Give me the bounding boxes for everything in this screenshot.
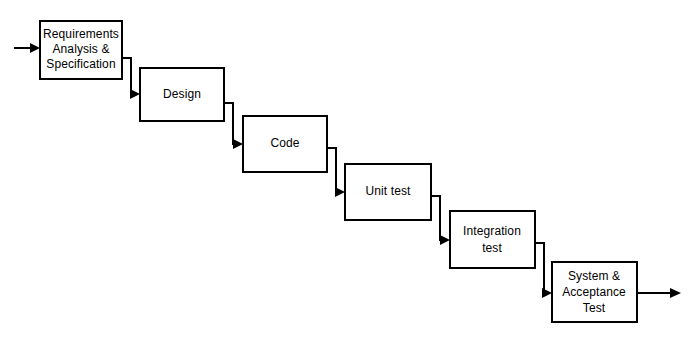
connector-elbow-path [535,243,548,293]
connector-code-to-unit-test [327,148,345,197]
connector-elbow-path [224,103,239,144]
connector-elbow-path [327,148,341,192]
exit-arrow-head [670,288,681,298]
connector-unit-test-to-integration-test [431,196,450,245]
stage-label-line: Integration [463,224,521,238]
connector-elbow-path [431,196,446,240]
stage-label-line: Specification [46,57,115,71]
entry-arrow-head [30,43,40,53]
stage-box-code[interactable]: Code [243,116,327,172]
connector-requirements-to-design [122,58,140,99]
stage-label-line: Design [163,87,201,101]
stage-label-line: Acceptance [562,285,626,299]
waterfall-diagram: Requirements Analysis & Specification De… [0,0,698,342]
waterfall-diagram-canvas: Requirements Analysis & Specification De… [0,0,698,342]
stage-box-integration-test[interactable]: Integration test [450,211,535,268]
stage-box-design[interactable]: Design [140,68,224,121]
stage-label-line: Code [270,136,299,150]
stage-box-system-acceptance-test[interactable]: System & Acceptance Test [552,262,637,322]
stage-label-line: Unit test [366,184,411,198]
connector-arrow-head [440,235,450,245]
stage-box-requirements[interactable]: Requirements Analysis & Specification [40,21,122,79]
stage-label-line: System & [568,269,620,283]
stage-box-outline [450,211,535,268]
connector-design-to-code [224,103,243,149]
stage-label-line: Requirements [43,27,119,41]
connector-integration-test-to-system-test [535,243,552,298]
stage-label-line: Analysis & [52,42,109,56]
stage-label-line: test [482,241,502,255]
connector-elbow-path [122,58,136,94]
connector-arrow-head [233,139,243,149]
entry-arrow [14,43,40,53]
stage-box-unit-test[interactable]: Unit test [345,164,431,220]
connector-arrow-head [335,187,345,197]
connector-arrow-head [542,288,552,298]
connector-arrow-head [130,89,140,99]
exit-arrow [637,288,681,298]
stage-label-line: Test [583,301,606,315]
